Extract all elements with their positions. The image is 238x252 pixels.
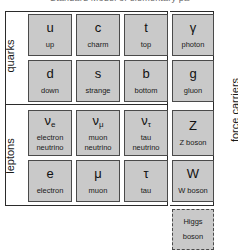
particle-symbol: s — [95, 67, 102, 80]
particle-symbol: γ — [190, 21, 197, 34]
rule-quarks-leptons — [5, 104, 168, 105]
particle-name: tauneutrino — [130, 133, 161, 152]
particle-name: charm — [86, 40, 111, 49]
particle-symbol: d — [46, 67, 53, 80]
particle-name: bottom — [133, 86, 160, 95]
particle-symbol: u — [46, 21, 53, 34]
diagram-title: Standard Model of elementary particles — [50, 0, 190, 3]
particle-cell-strange: s strange — [76, 60, 120, 102]
standard-model-diagram: Standard Model of elementary particles q… — [0, 0, 238, 252]
particle-symbol: μ — [94, 167, 102, 180]
rule-bottom-bosons — [170, 205, 214, 206]
particle-cell-tau: τ tau — [124, 160, 168, 202]
group-label-quarks: quarks — [4, 32, 16, 80]
particle-name: top — [139, 40, 153, 49]
particle-symbol: e — [46, 167, 53, 180]
particle-cell-charm: c charm — [76, 14, 120, 56]
particle-cell-higgs-boson: Higgsboson — [172, 209, 214, 250]
particle-symbol: c — [95, 21, 102, 34]
particle-cell-gluon: g gluon — [172, 60, 214, 102]
particle-name: strange — [83, 86, 112, 95]
particle-name: gluon — [182, 86, 204, 95]
particle-cell-up: u up — [28, 14, 72, 56]
particle-name: muonneutrino — [82, 133, 113, 152]
rule-top-bosons — [170, 11, 214, 12]
particle-cell-z-boson: Z Z boson — [172, 110, 214, 156]
rule-bottom-fermions — [5, 205, 168, 206]
particle-symbol: W — [187, 167, 199, 180]
particle-name: electron — [35, 186, 66, 195]
particle-symbol: g — [189, 67, 196, 80]
particle-name: up — [44, 40, 56, 49]
particle-symbol: νe — [45, 114, 56, 127]
particle-cell-muon-neutrino: νμ muonneutrino — [76, 110, 120, 156]
particle-cell-electron-neutrino: νe electronneutrino — [28, 110, 72, 156]
particle-cell-down: d down — [28, 60, 72, 102]
particle-symbol: Z — [189, 119, 197, 132]
group-label-leptons: leptons — [4, 132, 16, 180]
particle-name: photon — [180, 40, 207, 49]
particle-symbol: νμ — [92, 114, 103, 127]
particle-cell-w-boson: W W boson — [172, 160, 214, 202]
particle-cell-bottom: b bottom — [124, 60, 168, 102]
particle-name: down — [39, 86, 61, 95]
group-label-force-carriers: force carriers — [229, 65, 238, 155]
particle-symbol: τ — [143, 167, 148, 180]
particle-cell-tau-neutrino: ντ tauneutrino — [124, 110, 168, 156]
particle-cell-photon: γ photon — [172, 14, 214, 56]
particle-name: Higgsboson — [181, 215, 205, 244]
particle-name: W boson — [176, 186, 210, 195]
particle-cell-electron: e electron — [28, 160, 72, 202]
rule-top-fermions — [5, 11, 168, 12]
particle-cell-muon: μ muon — [76, 160, 120, 202]
particle-symbol: b — [142, 67, 149, 80]
particle-name: tau — [139, 186, 153, 195]
particle-cell-top: t top — [124, 14, 168, 56]
particle-symbol: ντ — [141, 114, 151, 127]
particle-name: muon — [87, 186, 110, 195]
particle-name: electronneutrino — [34, 133, 65, 152]
particle-symbol: t — [144, 21, 148, 34]
particle-name: Z boson — [177, 138, 208, 147]
